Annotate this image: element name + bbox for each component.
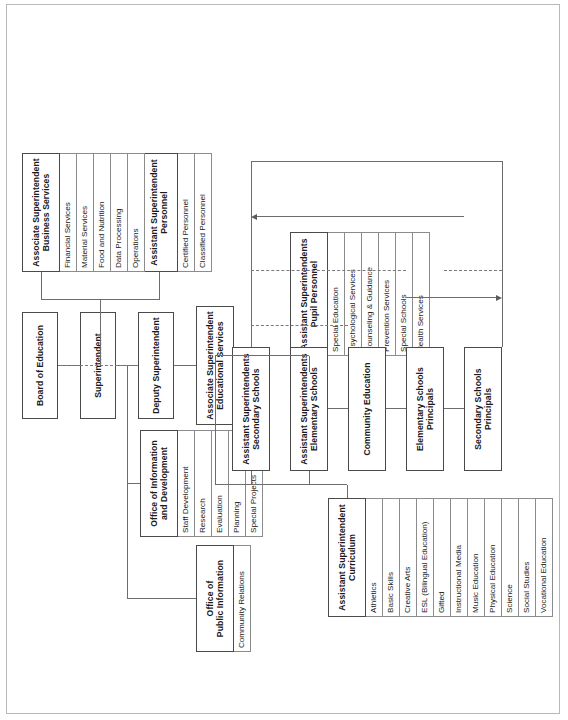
node-label-line1: Office of Information <box>149 440 159 527</box>
leaf-certified-personnel[interactable]: Certified Personnel <box>178 153 195 272</box>
node-office-of-information-and-development[interactable]: Office of Information and Development <box>140 430 178 537</box>
node-label-line2: Educational Services <box>215 321 225 409</box>
dashed-connector-community-education-advisory <box>251 325 348 326</box>
node-label-line2: Curriculum <box>347 534 357 581</box>
connector-secondary-principals-arrow-line <box>255 216 464 217</box>
leaf-financial-services[interactable]: Financial Services <box>60 153 77 272</box>
leaf-social-studies[interactable]: Social Studies <box>519 498 536 617</box>
leaf-physical-education[interactable]: Physical Education <box>485 498 502 617</box>
node-assistant-superintendents-secondary-schools[interactable]: Assistant Superintendents Secondary Scho… <box>232 347 270 471</box>
leaf-label: Health Services <box>416 295 426 352</box>
node-label-line1: Assistant Superintendents <box>241 353 251 464</box>
connector-return-bracket-top <box>251 161 252 347</box>
connector-return-bracket-vertical <box>251 161 502 162</box>
leaf-community-relations[interactable]: Community Relations <box>234 545 251 652</box>
connector-educational-services-branch-bus <box>215 484 347 485</box>
connector-deputy-to-educational-services <box>174 365 196 366</box>
node-label-line2: Principals <box>483 388 493 430</box>
leaf-instructional-media[interactable]: Instructional Media <box>451 498 468 617</box>
leaf-label: Science <box>505 584 515 613</box>
leaf-prevention-services[interactable]: Prevention Services <box>379 232 396 356</box>
leaf-label: Research <box>198 498 208 533</box>
org-chart-page: Board of Education Superintendent Deputy… <box>0 0 568 720</box>
node-label: Deputy Superintendent <box>151 317 161 414</box>
leaf-classified-personnel[interactable]: Classified Personnel <box>195 153 212 272</box>
connector-community-education-to-elementary-principals <box>386 408 406 409</box>
connector-pupil-personnel-stub <box>309 356 310 372</box>
leaf-science[interactable]: Science <box>502 498 519 617</box>
leaf-psychological-services[interactable]: Psychological Services <box>345 232 362 356</box>
node-label-line1: Assistant Superintendent <box>149 159 159 266</box>
node-label-line1: Assistant Superintendents <box>299 353 309 464</box>
connector-pupil-personnel-drop <box>215 355 309 356</box>
node-label-line2: and Development <box>159 447 169 520</box>
leaf-material-services[interactable]: Material Services <box>77 153 94 272</box>
leaf-label: ESL (Bilingual Education) <box>420 522 430 613</box>
leaf-label: Instructional Media <box>454 545 464 613</box>
leaf-basic-skills[interactable]: Basic Skills <box>383 498 400 617</box>
connector-return-bracket-bottom <box>502 161 503 347</box>
node-label-line1: Associate Superintendent <box>205 311 215 419</box>
node-label-line1: Associate Superintendent <box>31 158 41 266</box>
connector-elementary-principals-to-secondary-principals <box>444 408 464 409</box>
leaf-label: Data Processing <box>114 209 124 268</box>
node-label-line1: Secondary Schools <box>473 368 483 449</box>
connector-bus-to-business-services <box>41 272 42 300</box>
connector-elementary-principals-arrow-line <box>406 297 496 298</box>
leaf-data-processing[interactable]: Data Processing <box>111 153 128 272</box>
leaf-staff-development[interactable]: Staff Development <box>178 430 195 537</box>
node-community-education[interactable]: Community Education <box>348 347 386 471</box>
leaf-esl-bilingual-education[interactable]: ESL (Bilingual Education) <box>417 498 434 617</box>
leaf-research[interactable]: Research <box>195 430 212 537</box>
leaf-label: Social Studies <box>522 562 532 613</box>
node-label-line1: Elementary Schools <box>415 367 425 451</box>
node-label-line1: Office of <box>205 581 215 617</box>
dashed-connector-deputy-to-personnel-branch <box>60 365 138 366</box>
leaf-label: Music Education <box>471 554 481 613</box>
leaf-vocational-education[interactable]: Vocational Education <box>536 498 553 617</box>
node-label-line2: Public Information <box>215 560 225 637</box>
leaf-label: Gifted <box>437 591 447 613</box>
connector-staff-bus-to-info-development <box>127 483 140 484</box>
node-elementary-schools-principals[interactable]: Elementary Schools Principals <box>406 347 444 471</box>
leaf-food-and-nutrition[interactable]: Food and Nutrition <box>94 153 111 272</box>
leaf-special-education[interactable]: Special Education <box>328 232 345 356</box>
leaf-label: Planning <box>232 501 242 533</box>
node-associate-superintendent-business-services[interactable]: Associate Superintendent Business Servic… <box>22 153 60 272</box>
connector-elementary-schools-to-community-education-v <box>328 408 348 409</box>
connector-educational-services-to-pupil-personnel <box>215 356 216 425</box>
connector-educational-services-to-bus <box>215 425 216 485</box>
node-label-line2: Secondary Schools <box>251 368 261 449</box>
leaf-label: Creative Arts <box>403 567 413 613</box>
leaf-athletics[interactable]: Athletics <box>366 498 383 617</box>
node-label-line2: Business Services <box>41 174 51 252</box>
leaf-label: Prevention Services <box>382 280 392 352</box>
node-label-line2: Personnel <box>159 191 169 233</box>
leaf-health-services[interactable]: Health Services <box>413 232 430 356</box>
leaf-label: Certified Personnel <box>181 199 191 268</box>
org-chart-canvas: Board of Education Superintendent Deputy… <box>0 0 560 712</box>
node-deputy-superintendent[interactable]: Deputy Superintendent <box>138 312 174 419</box>
node-assistant-superintendent-curriculum[interactable]: Assistant Superintendent Curriculum <box>328 498 366 617</box>
node-secondary-schools-principals[interactable]: Secondary Schools Principals <box>464 347 502 471</box>
leaf-creative-arts[interactable]: Creative Arts <box>400 498 417 617</box>
leaf-gifted[interactable]: Gifted <box>434 498 451 617</box>
node-label-line2: Elementary Schools <box>309 367 319 451</box>
arrow-secondary-principals-reporting <box>251 214 257 220</box>
connector-bus-to-personnel <box>159 272 160 300</box>
connector-bus-to-secondary-schools <box>251 471 252 485</box>
leaf-label: Special Schools <box>399 294 409 352</box>
leaf-music-education[interactable]: Music Education <box>468 498 485 617</box>
leaf-label: Basic Skills <box>386 572 396 613</box>
node-office-of-public-information[interactable]: Office of Public Information <box>196 545 234 652</box>
leaf-operations[interactable]: Operations <box>128 153 145 272</box>
leaf-counseling-and-guidance[interactable]: Counseling & Guidance <box>362 232 379 356</box>
leaf-label: Vocational Education <box>539 537 549 613</box>
node-board-of-education[interactable]: Board of Education <box>22 312 58 419</box>
node-label-line2: Principals <box>425 388 435 430</box>
leaf-label: Counseling & Guidance <box>365 267 375 352</box>
node-assistant-superintendent-personnel[interactable]: Assistant Superintendent Personnel <box>140 153 178 272</box>
node-assistant-superintendents-pupil-personnel[interactable]: Assistant Superintendents Pupil Personne… <box>290 232 328 356</box>
connector-bus-to-elementary-schools <box>309 471 310 485</box>
leaf-special-schools[interactable]: Special Schools <box>396 232 413 356</box>
